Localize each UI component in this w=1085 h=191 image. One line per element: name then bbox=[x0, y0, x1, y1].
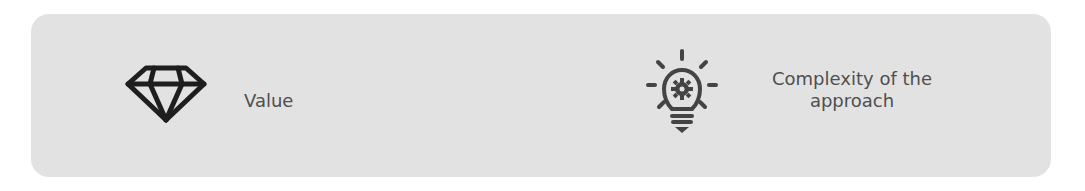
legend-label-complexity-line-1: Complexity of the bbox=[772, 68, 932, 89]
legend-item-complexity: Complexity of the approach bbox=[642, 44, 942, 144]
legend-label-value: Value bbox=[244, 90, 293, 111]
legend-label-complexity-line-2: approach bbox=[810, 90, 894, 111]
legend-card: Value bbox=[31, 14, 1051, 177]
legend-item-value: Value bbox=[124, 66, 293, 126]
diamond-icon bbox=[124, 64, 208, 128]
lightbulb-gear-icon bbox=[642, 47, 722, 141]
legend-label-complexity: Complexity of the approach bbox=[762, 68, 942, 112]
